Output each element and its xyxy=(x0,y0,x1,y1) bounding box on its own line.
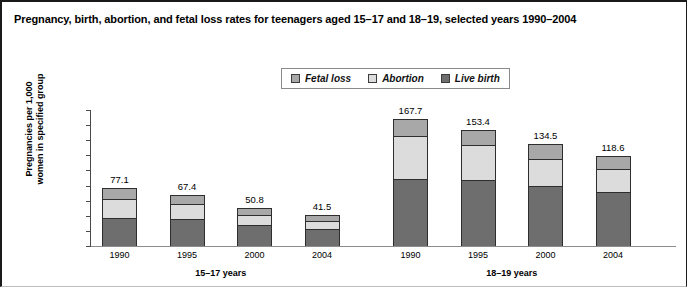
x-axis-tick-label: 1990 xyxy=(98,250,142,260)
chart-legend: Fetal lossAbortionLive birth xyxy=(281,68,510,89)
x-axis-tick-label: 2000 xyxy=(524,250,568,260)
y-axis-label: Pregnancies per 1,000 women in specified… xyxy=(24,49,46,209)
bar-stack[interactable]: 41.5 xyxy=(305,215,340,246)
x-axis-group-labels: 15–17 years18–19 years xyxy=(90,268,676,282)
bar-stack[interactable]: 167.7 xyxy=(393,119,428,246)
bar-segment-fetal-loss[interactable] xyxy=(237,208,272,216)
bar-segment-abortion[interactable] xyxy=(102,199,137,218)
y-axis-label-line2: women in specified group xyxy=(35,74,45,185)
bar-segment-live-birth[interactable] xyxy=(305,229,340,246)
y-axis-tick-mark xyxy=(86,246,91,247)
bar-segment-live-birth[interactable] xyxy=(528,186,563,246)
y-axis-line xyxy=(90,110,91,246)
legend-swatch-icon xyxy=(441,74,450,83)
bar-segment-live-birth[interactable] xyxy=(393,179,428,246)
bar-stack[interactable]: 118.6 xyxy=(596,156,631,246)
x-axis-tick-label: 2000 xyxy=(233,250,277,260)
bar-segment-abortion[interactable] xyxy=(461,145,496,179)
bar-segment-abortion[interactable] xyxy=(528,159,563,186)
y-axis-tick-mark xyxy=(86,216,91,217)
y-axis-tick-mark xyxy=(86,201,91,202)
legend-item: Fetal loss xyxy=(291,73,351,84)
x-axis-group-label: 18–19 years xyxy=(452,268,572,278)
x-axis-tick-label: 1995 xyxy=(456,250,500,260)
bar-segment-abortion[interactable] xyxy=(305,221,340,230)
legend-label: Live birth xyxy=(455,73,500,84)
legend-swatch-icon xyxy=(291,74,300,83)
bar-total-label: 50.8 xyxy=(245,194,264,205)
x-axis-tick-label: 1995 xyxy=(165,250,209,260)
bar-segment-abortion[interactable] xyxy=(170,204,205,219)
y-axis-tick-mark xyxy=(86,170,91,171)
x-axis-tick-label: 1990 xyxy=(389,250,433,260)
y-axis-tick-mark xyxy=(86,110,91,111)
x-axis-group-label: 15–17 years xyxy=(161,268,281,278)
legend-item: Abortion xyxy=(368,73,424,84)
bar-segment-fetal-loss[interactable] xyxy=(596,156,631,169)
legend-swatch-icon xyxy=(368,74,377,83)
bar-total-label: 118.6 xyxy=(601,142,624,153)
figure-container: Pregnancy, birth, abortion, and fetal lo… xyxy=(0,0,687,287)
y-axis-tick-mark xyxy=(86,155,91,156)
bar-total-label: 167.7 xyxy=(399,105,423,116)
figure-title: Pregnancy, birth, abortion, and fetal lo… xyxy=(14,13,676,25)
legend-item: Live birth xyxy=(441,73,500,84)
bar-segment-fetal-loss[interactable] xyxy=(170,195,205,204)
bar-segment-live-birth[interactable] xyxy=(237,225,272,246)
bar-segment-abortion[interactable] xyxy=(596,169,631,192)
bar-stack[interactable]: 77.1 xyxy=(102,188,137,246)
legend-label: Fetal loss xyxy=(305,73,351,84)
bar-segment-abortion[interactable] xyxy=(237,215,272,225)
bar-segment-abortion[interactable] xyxy=(393,136,428,179)
x-axis-tick-label: 2004 xyxy=(591,250,635,260)
title-divider xyxy=(2,35,686,36)
bar-total-label: 67.4 xyxy=(178,181,197,192)
y-axis-tick-mark xyxy=(86,186,91,187)
bar-segment-live-birth[interactable] xyxy=(102,218,137,246)
bar-total-label: 77.1 xyxy=(110,174,129,185)
bar-total-label: 153.4 xyxy=(466,116,490,127)
bar-segment-fetal-loss[interactable] xyxy=(528,144,563,159)
x-axis-tick-label: 2004 xyxy=(300,250,344,260)
bar-stack[interactable]: 50.8 xyxy=(237,208,272,246)
x-axis-tick-labels: 19901995200020041990199520002004 xyxy=(90,250,676,264)
bar-stack[interactable]: 153.4 xyxy=(461,130,496,246)
bar-stack[interactable]: 134.5 xyxy=(528,144,563,246)
x-axis-line xyxy=(90,246,676,247)
y-axis-tick-mark xyxy=(86,125,91,126)
bar-segment-fetal-loss[interactable] xyxy=(393,119,428,136)
y-axis-tick-mark xyxy=(86,140,91,141)
bar-stack[interactable]: 67.4 xyxy=(170,195,205,246)
legend-label: Abortion xyxy=(382,73,424,84)
y-axis-tick-mark xyxy=(86,231,91,232)
bar-total-label: 41.5 xyxy=(313,201,332,212)
bar-segment-live-birth[interactable] xyxy=(170,219,205,246)
y-axis-label-line1: Pregnancies per 1,000 xyxy=(24,81,34,176)
bar-total-label: 134.5 xyxy=(534,130,558,141)
bar-segment-live-birth[interactable] xyxy=(596,192,631,246)
bar-segment-fetal-loss[interactable] xyxy=(102,188,137,199)
plot-area: 18016014012010080604020077.167.450.841.5… xyxy=(90,110,676,246)
bar-segment-live-birth[interactable] xyxy=(461,180,496,246)
bar-segment-fetal-loss[interactable] xyxy=(461,130,496,145)
